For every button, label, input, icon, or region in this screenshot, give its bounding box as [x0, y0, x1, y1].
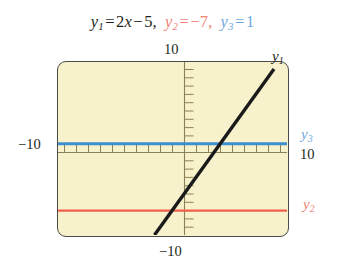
curve-label-y3-variable: y: [301, 126, 308, 142]
curve-label-y2-variable: y: [303, 196, 310, 212]
equation-caption: y1=2x−5, y2=−7, y3=1: [0, 12, 345, 32]
equation-y3-value: 1: [246, 12, 254, 31]
curve-label-y1-variable: y: [272, 48, 279, 64]
equation-y2-comma: ,: [208, 12, 216, 31]
equation-y1-equals: =: [104, 12, 116, 31]
equation-y3-equals: =: [233, 12, 245, 31]
equation-y1-minus: −: [132, 12, 144, 31]
y-axis-ticks: [185, 70, 194, 228]
equation-y3: y3=1: [221, 12, 255, 32]
curve-label-y3: y3: [301, 126, 313, 144]
curve-label-y3-subscript: 3: [308, 133, 313, 144]
curve-label-y1: y1: [272, 48, 284, 66]
equation-y1: y1=2x−5,: [91, 12, 161, 32]
graphing-calculator-screen: [57, 61, 289, 237]
curve-label-y2-subscript: 2: [310, 203, 315, 214]
x-axis-max-label: 10: [300, 146, 315, 163]
equation-y2-variable: y: [165, 12, 172, 31]
equation-y2-value: −7: [190, 12, 208, 31]
equation-y2: y2=−7,: [165, 12, 216, 32]
equation-y1-subscript: 1: [98, 20, 103, 32]
curve-label-y1-subscript: 1: [279, 55, 284, 66]
y-axis-max-label: 10: [164, 41, 179, 58]
equation-y2-equals: =: [178, 12, 190, 31]
x-axis-min-label: −10: [18, 136, 41, 153]
equation-y3-variable: y: [221, 12, 228, 31]
equation-y1-comma: ,: [153, 12, 161, 31]
equation-y1-x: x: [124, 12, 131, 31]
graph-plot: [58, 62, 287, 235]
y-axis-min-label: −10: [159, 243, 182, 260]
equation-y1-constant: 5: [144, 12, 152, 31]
curve-label-y2: y2: [303, 196, 315, 214]
